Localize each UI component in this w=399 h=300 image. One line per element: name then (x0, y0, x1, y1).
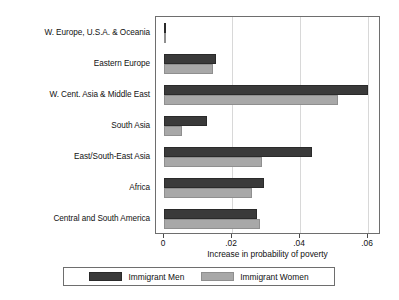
category-label: W. Cent. Asia & Middle East (0, 89, 150, 98)
legend-label-men: Immigrant Men (128, 272, 184, 282)
legend-swatch-women (201, 272, 234, 281)
bar-men (164, 147, 312, 157)
legend-item-women: Immigrant Women (201, 272, 308, 282)
legend-item-men: Immigrant Men (89, 272, 184, 282)
bar-men (164, 85, 368, 95)
bar-men (164, 54, 216, 64)
bar-women (164, 219, 260, 229)
x-axis (155, 234, 380, 239)
bar-women (164, 33, 166, 43)
legend-swatch-men (89, 272, 122, 281)
x-tick-label: .06 (361, 238, 373, 248)
category-label: South Asia (0, 121, 150, 130)
bar-women (164, 126, 182, 136)
x-tick-label: .04 (293, 238, 305, 248)
bar-men (164, 209, 257, 219)
x-axis-title: Increase in probability of poverty (155, 249, 380, 260)
gridline (300, 17, 301, 233)
plot-area (155, 16, 380, 234)
chart-legend: Immigrant Men Immigrant Women (63, 267, 335, 286)
category-label: Eastern Europe (0, 58, 150, 67)
category-label: East/South-East Asia (0, 152, 150, 161)
bar-men (164, 116, 207, 126)
bar-women (164, 188, 252, 198)
legend-label-women: Immigrant Women (240, 272, 308, 282)
bar-women (164, 95, 338, 105)
bar-men (164, 178, 264, 188)
bar-chart: W. Europe, U.S.A. & OceaniaEastern Europ… (0, 0, 399, 300)
x-tick-label: 0 (161, 238, 166, 248)
bar-women (164, 157, 262, 167)
category-label: Africa (0, 183, 150, 192)
gridline (232, 17, 233, 233)
category-label: Central and South America (0, 214, 150, 223)
gridline (368, 17, 369, 233)
category-label: W. Europe, U.S.A. & Oceania (0, 27, 150, 36)
category-axis-labels: W. Europe, U.S.A. & OceaniaEastern Europ… (0, 16, 150, 234)
bar-women (164, 64, 213, 74)
bar-men (164, 23, 166, 33)
x-tick-label: .02 (225, 238, 237, 248)
